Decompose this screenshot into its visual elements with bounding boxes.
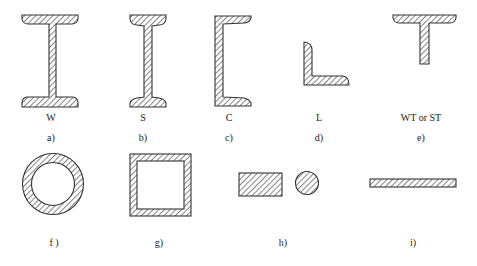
section-letter-b: b) bbox=[139, 132, 147, 144]
section-letter-c: c) bbox=[225, 132, 233, 144]
section-letter-i: i) bbox=[410, 237, 416, 249]
section-letter-d: d) bbox=[315, 132, 323, 144]
rectangular-bar-shape bbox=[239, 173, 282, 196]
c-section-shape bbox=[215, 16, 251, 106]
w-section-shape bbox=[22, 15, 78, 107]
l-section-shape bbox=[304, 42, 349, 85]
section-name-wt: WT or ST bbox=[401, 112, 441, 123]
round-rod-shape bbox=[296, 172, 319, 195]
section-letter-e: e) bbox=[417, 132, 425, 144]
steel-sections-diagram: W a) S b) C c) L d) WT or ST e) f ) g) h… bbox=[0, 0, 477, 266]
square-tube-section-shape bbox=[130, 154, 191, 216]
plate-section-shape bbox=[370, 179, 456, 187]
section-letter-f: f ) bbox=[49, 237, 58, 249]
section-name-c: C bbox=[226, 112, 233, 123]
section-name-w: W bbox=[46, 112, 56, 123]
solid-bar-section-shapes bbox=[239, 172, 319, 197]
wt-section-shape bbox=[393, 15, 456, 64]
section-letter-g: g) bbox=[155, 237, 163, 249]
s-section-shape bbox=[130, 15, 166, 107]
section-name-l: L bbox=[316, 112, 322, 123]
section-letter-a: a) bbox=[47, 132, 55, 144]
section-name-s: S bbox=[140, 112, 146, 123]
section-letter-h: h) bbox=[279, 237, 287, 249]
pipe-section-shape bbox=[23, 154, 84, 215]
